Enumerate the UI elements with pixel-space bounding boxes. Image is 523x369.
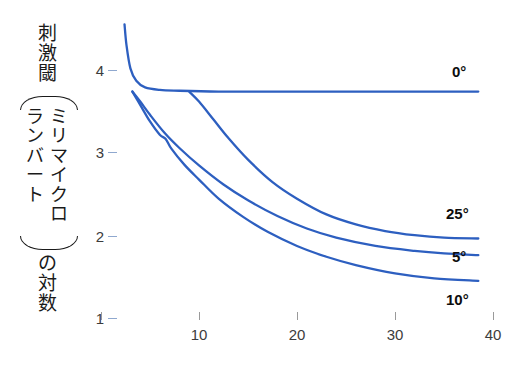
series-label-25deg: 25° — [446, 205, 469, 222]
plot-area — [0, 0, 523, 369]
series-line-25deg — [189, 92, 478, 239]
series-line-0deg — [125, 24, 479, 91]
series-label-10deg: 10° — [446, 291, 469, 308]
series-label-5deg: 5° — [452, 248, 466, 265]
series-line-5deg — [132, 92, 478, 256]
chart-figure: 刺激閾 ミリマイクロ ランバート の対数 4 3 2 1 10 20 30 40… — [0, 0, 523, 369]
series-label-0deg: 0° — [452, 63, 466, 80]
